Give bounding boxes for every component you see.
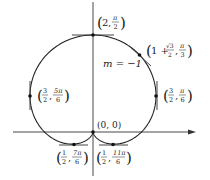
svg-text:2: 2 — [62, 158, 66, 166]
svg-text:3: 3 — [43, 87, 47, 95]
point-bottom-right — [111, 143, 115, 147]
svg-text:,: , — [108, 17, 111, 28]
label-bottom-right: ( 1 2 , 11π 6 ) — [96, 149, 132, 167]
svg-text:π: π — [179, 42, 185, 50]
svg-text:1: 1 — [62, 149, 66, 157]
svg-text:11π: 11π — [113, 149, 126, 157]
svg-text:,: , — [68, 152, 71, 163]
svg-text:): ) — [126, 149, 132, 167]
cardioid-diagram: ( 2 , π 2 ) ( 1 + √3 2 , π 3 ) m = −1 ( … — [0, 0, 210, 180]
svg-text:6: 6 — [75, 158, 79, 166]
x-axis-arrow-icon — [188, 130, 196, 135]
svg-text:(: ( — [96, 149, 102, 167]
svg-text:,: , — [49, 90, 52, 101]
svg-text:π: π — [112, 14, 118, 22]
svg-text:6: 6 — [181, 96, 185, 104]
svg-text:2: 2 — [114, 23, 118, 31]
svg-text:2: 2 — [43, 96, 47, 104]
svg-text:6: 6 — [116, 158, 120, 166]
svg-text:): ) — [187, 42, 193, 60]
svg-text:7π: 7π — [73, 149, 82, 157]
point-bottom-left — [72, 143, 76, 147]
svg-text:): ) — [83, 149, 89, 167]
label-left: ( 3 2 , 5π 6 ) — [37, 87, 70, 105]
svg-text:π: π — [179, 87, 185, 95]
label-right: ( 3 2 , π 6 ) — [163, 87, 193, 105]
svg-text:): ) — [120, 14, 126, 32]
point-top — [91, 33, 95, 37]
label-upper-right: ( 1 + √3 2 , π 3 ) — [146, 42, 193, 60]
svg-text:(: ( — [56, 149, 62, 167]
svg-text:,: , — [108, 152, 111, 163]
svg-text:1: 1 — [102, 149, 106, 157]
svg-text:): ) — [64, 87, 70, 105]
label-bottom-left: ( 1 2 , 7π 6 ) — [56, 149, 89, 167]
svg-text:2: 2 — [168, 51, 172, 58]
svg-text:3: 3 — [169, 87, 173, 95]
point-right — [154, 94, 158, 98]
svg-text:2: 2 — [102, 158, 106, 166]
label-origin: (0, 0) — [97, 120, 121, 130]
slope-label: m = −1 — [103, 58, 142, 69]
point-upper-right — [138, 53, 142, 57]
label-top: ( 2 , π 2 ) — [97, 14, 126, 32]
svg-text:6: 6 — [56, 96, 60, 104]
svg-text:): ) — [187, 87, 193, 105]
point-left — [28, 94, 32, 98]
svg-text:2: 2 — [169, 96, 173, 104]
svg-text:5π: 5π — [54, 87, 63, 95]
point-origin — [91, 130, 95, 134]
svg-text:√3: √3 — [166, 42, 174, 49]
svg-text:,: , — [175, 90, 178, 101]
svg-text:(: ( — [37, 87, 43, 105]
svg-text:3: 3 — [181, 51, 185, 59]
svg-text:,: , — [175, 45, 178, 56]
svg-text:(: ( — [163, 87, 169, 105]
